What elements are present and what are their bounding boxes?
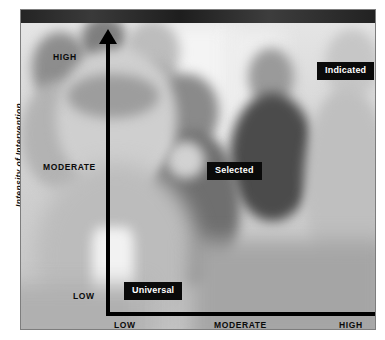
callout-selected: Selected: [207, 162, 262, 180]
intervention-continuum-figure: Intensity of Intervention: [0, 0, 385, 340]
y-tick-low: LOW: [73, 291, 95, 301]
callout-indicated: Indicated: [317, 62, 374, 80]
callout-universal: Universal: [124, 282, 182, 300]
y-tick-moderate: MODERATE: [43, 162, 96, 172]
y-tick-high: HIGH: [53, 52, 77, 62]
x-tick-high: HIGH: [339, 320, 363, 330]
photo-top-band: [21, 10, 375, 23]
x-tick-low: LOW: [114, 320, 136, 330]
photo-plate: HIGH MODERATE LOW LOW MODERATE HIGH Univ…: [20, 9, 376, 330]
y-axis-arrowhead: [99, 29, 117, 44]
y-axis-line: [106, 42, 110, 316]
x-tick-moderate: MODERATE: [214, 320, 267, 330]
x-axis-line: [106, 312, 376, 316]
